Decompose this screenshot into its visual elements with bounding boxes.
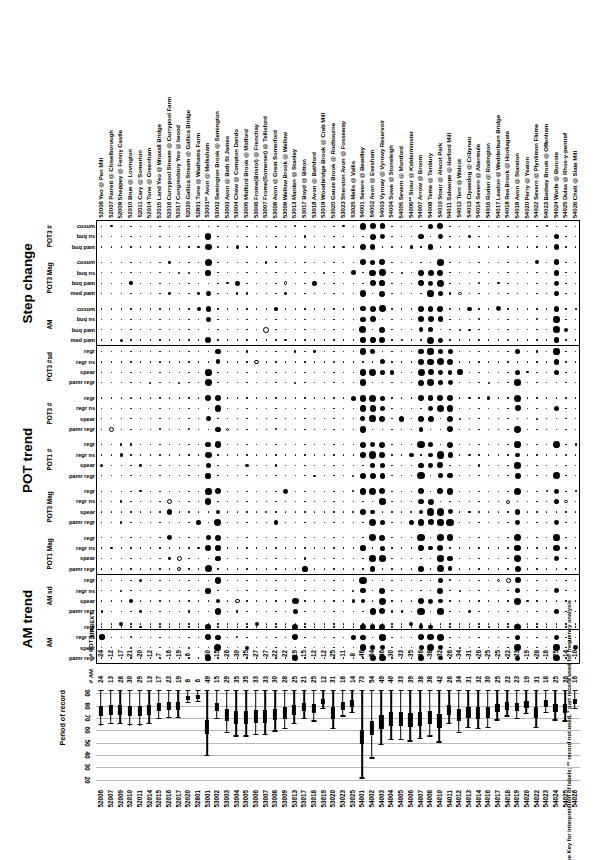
- matrix-cell: [232, 471, 242, 481]
- matrix-cell: [281, 424, 291, 434]
- count-cell: 6: [193, 657, 203, 683]
- matrix-cell: [445, 325, 455, 335]
- timeline-x-label: 54005: [396, 790, 406, 852]
- matrix-cell: [397, 403, 407, 413]
- matrix-marker: [302, 566, 308, 572]
- matrix-marker: [304, 429, 305, 430]
- matrix-marker: [428, 306, 434, 312]
- matrix-cell: [310, 268, 320, 278]
- matrix-marker: [437, 306, 443, 312]
- timeline-x-label: 53023: [338, 790, 348, 852]
- matrix-marker: [179, 465, 180, 466]
- matrix-cell: [494, 325, 504, 335]
- timeline-x-label: 54010: [435, 790, 445, 852]
- matrix-marker: [205, 488, 212, 495]
- station-label-text: 54003 Vyrnwy @ Vyrnwy Reservoir: [377, 120, 387, 218]
- matrix-cell: [552, 268, 562, 278]
- matrix-cell: [348, 357, 358, 367]
- matrix-cell: [232, 304, 242, 314]
- matrix-cell: [552, 403, 562, 413]
- timeline-used-record: [437, 714, 441, 728]
- timeline-bar-cap: [282, 690, 287, 691]
- matrix-cell: [465, 564, 475, 574]
- matrix-cell: [174, 486, 184, 496]
- matrix-marker: [168, 292, 170, 294]
- matrix-marker: [379, 555, 386, 562]
- matrix-marker: [343, 418, 344, 419]
- matrix-marker: [459, 547, 460, 548]
- matrix-marker: [411, 444, 412, 445]
- matrix-cell: [426, 471, 436, 481]
- matrix-cell: [232, 346, 242, 356]
- matrix-marker: [382, 319, 383, 320]
- matrix-cell: [223, 533, 233, 543]
- matrix-cell: [348, 439, 358, 449]
- matrix-marker: [188, 372, 189, 373]
- matrix-cell: [232, 575, 242, 585]
- matrix-row-label: spear: [80, 553, 95, 563]
- matrix-cell: [503, 257, 513, 267]
- matrix-marker: [169, 382, 170, 383]
- matrix-cell: [532, 377, 542, 387]
- matrix-marker: [111, 262, 112, 263]
- station-label-text: 54011 Salwarpe @ Harford Mill: [444, 133, 454, 218]
- timeline-bar-cap: [427, 735, 432, 736]
- matrix-cell: [203, 424, 213, 434]
- urbext-cell: [184, 619, 194, 629]
- matrix-marker: [159, 444, 160, 445]
- matrix-cell: [184, 221, 194, 231]
- matrix-marker: [304, 339, 305, 340]
- matrix-cell: [242, 231, 252, 241]
- matrix-marker: [150, 372, 151, 373]
- matrix-cell: [407, 403, 417, 413]
- matrix-marker: [198, 351, 199, 352]
- timeline-used-record: [273, 709, 277, 721]
- matrix-marker: [215, 535, 221, 541]
- matrix-cell: [300, 586, 310, 596]
- urbext-cell: [271, 619, 281, 629]
- urbext-cell: [232, 619, 242, 629]
- matrix-cell: [523, 357, 533, 367]
- matrix-marker: [497, 282, 499, 284]
- matrix-cell: [174, 553, 184, 563]
- matrix-cell: [397, 325, 407, 335]
- matrix-marker: [496, 306, 501, 311]
- matrix-marker: [198, 590, 199, 591]
- matrix-cell: [407, 460, 417, 470]
- matrix-marker: [353, 580, 354, 581]
- matrix-marker: [285, 522, 286, 523]
- count-cell: 46: [357, 631, 367, 657]
- timeline-used-record: [205, 720, 209, 734]
- matrix-marker: [215, 608, 222, 615]
- matrix-cell: [455, 586, 465, 596]
- matrix-marker: [324, 511, 325, 512]
- matrix-cell: [571, 346, 581, 356]
- matrix-cell: [484, 377, 494, 387]
- matrix-marker: [101, 397, 102, 398]
- timeline-bar-cap: [147, 690, 152, 691]
- matrix-marker: [352, 475, 354, 477]
- matrix-marker: [428, 316, 434, 322]
- matrix-marker: [227, 397, 228, 398]
- matrix-marker: [353, 568, 354, 569]
- matrix-marker: [188, 590, 189, 591]
- matrix-cell: [116, 314, 126, 324]
- matrix-marker: [459, 558, 460, 559]
- matrix-marker: [478, 464, 480, 466]
- matrix-cell: [339, 507, 349, 517]
- matrix-marker: [121, 547, 122, 548]
- matrix-cell: [252, 346, 262, 356]
- matrix-cell: [416, 288, 426, 298]
- matrix-marker: [420, 226, 421, 227]
- matrix-row: [97, 335, 579, 345]
- matrix-cell: [397, 221, 407, 231]
- matrix-cell: [358, 357, 368, 367]
- count-cell: 31: [531, 657, 541, 683]
- matrix-cell: [542, 403, 552, 413]
- matrix-marker: [488, 361, 489, 362]
- matrix-cell: [232, 221, 242, 231]
- matrix-marker: [227, 361, 228, 362]
- matrix-cell: [503, 231, 513, 241]
- matrix-marker: [333, 418, 334, 419]
- matrix-cell: [348, 471, 358, 481]
